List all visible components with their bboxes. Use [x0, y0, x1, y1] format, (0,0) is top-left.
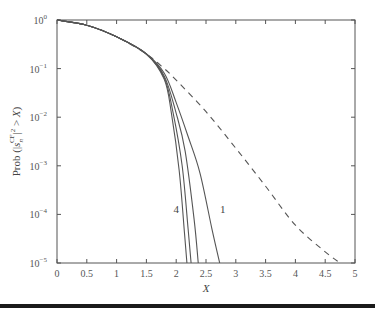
curve-3: [57, 20, 191, 263]
x-axis-label: X: [202, 282, 211, 294]
curve-4: [57, 20, 187, 263]
y-axis-label: Prob (|snCF|2 > X): [8, 106, 25, 176]
curve-annotations: 41: [173, 203, 225, 215]
x-tick-label: 0: [55, 268, 60, 279]
curve-label: 1: [220, 203, 226, 215]
y-tick-label: 100: [34, 13, 48, 26]
x-tick-label: 2.5: [200, 268, 213, 279]
y-tick-label: 10−1: [30, 62, 48, 75]
x-tick-label: 4.5: [319, 268, 332, 279]
x-tick-label: 4: [293, 268, 298, 279]
x-tick-label: 1.5: [140, 268, 153, 279]
chart: 00.511.522.533.544.55 10010−110−210−310−…: [0, 0, 375, 309]
x-tick-label: 0.5: [81, 268, 94, 279]
x-tick-label: 2: [174, 268, 179, 279]
bottom-rule: [0, 304, 375, 308]
curve-label: 4: [173, 203, 179, 215]
y-tick-label: 10−4: [30, 207, 48, 220]
y-axis-ticks: 10010−110−210−310−410−5: [30, 13, 355, 269]
curve-dashed-reference-: [57, 20, 340, 263]
x-tick-label: 1: [114, 268, 119, 279]
y-tick-label: 10−5: [30, 256, 48, 269]
x-axis-ticks: 00.511.522.533.544.55: [55, 20, 358, 279]
svg-text:Prob (|snCF|2 > X): Prob (|snCF|2 > X): [8, 106, 25, 176]
x-tick-label: 5: [353, 268, 358, 279]
y-tick-label: 10−2: [30, 110, 48, 123]
curve-2: [57, 20, 198, 263]
y-tick-label: 10−3: [30, 159, 48, 172]
x-tick-label: 3: [233, 268, 238, 279]
curves: [57, 20, 340, 263]
plot-frame: [57, 20, 355, 263]
x-tick-label: 3.5: [259, 268, 272, 279]
